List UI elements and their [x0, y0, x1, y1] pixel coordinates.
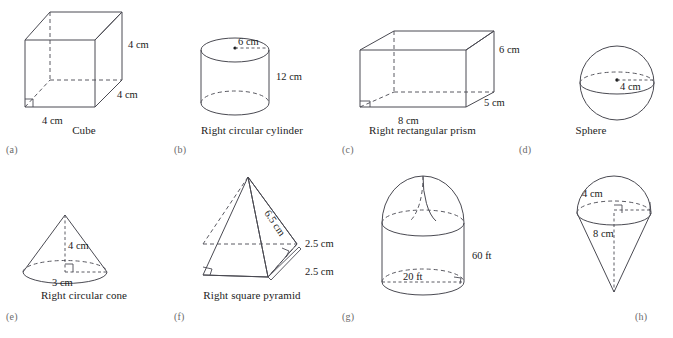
cone-height-label: 4 cm [68, 240, 89, 251]
panel-cube: 4 cm 4 cm 4 cm Cube (a) [0, 0, 168, 169]
sphere-equator-front [580, 83, 654, 94]
pyramid-sublabel: (f) [174, 311, 185, 322]
cube-drawing: 4 cm 4 cm 4 cm [0, 0, 168, 132]
dome-cylinder-bottom-front-arc [382, 282, 464, 295]
cube-height-label: 4 cm [128, 39, 149, 50]
dome-cylinder-sublabel: (g) [342, 311, 354, 322]
cube-hidden-diagonal-edge [25, 80, 50, 107]
pyramid-side-lower-label: 2.5 cm [305, 266, 334, 277]
square-pyramid-drawing: 6.5 cm 2.5 cm 2.5 cm [168, 169, 336, 301]
sphere-radius-label: 4 cm [620, 81, 641, 92]
cylinder-sublabel: (b) [174, 144, 186, 155]
pyramid-caption: Right square pyramid [168, 289, 336, 302]
geometry-figure-sheet: 4 cm 4 cm 4 cm Cube (a) 6 cm [0, 0, 673, 338]
cube-top-face [25, 12, 122, 40]
panel-sphere: 4 cm Sphere (d) [509, 0, 673, 169]
cylinder-height-label: 12 cm [276, 71, 302, 82]
pyramid-base-corner-tick-upper [299, 247, 301, 249]
pyramid-base-edge-right-offset [271, 249, 301, 280]
pyramid-slant-right-angle-marker [282, 248, 289, 257]
cube-sublabel: (a) [6, 144, 18, 155]
prism-caption: Right rectangular prism [336, 124, 509, 137]
sphere-outline [580, 46, 654, 120]
cylinder-top-ellipse [201, 38, 269, 62]
cone-right-angle-marker [65, 264, 73, 272]
prism-right-face [466, 31, 494, 107]
prism-depth-label: 5 cm [484, 97, 505, 108]
dome-base-front-arc [382, 223, 464, 236]
cone-left-side [23, 215, 65, 272]
panel-rectangular-prism: 6 cm 5 cm 8 cm Right rectangular prism (… [336, 0, 504, 169]
hemisphere-radius-label: 4 cm [582, 188, 603, 199]
pyramid-side-upper-label: 2.5 cm [305, 238, 334, 249]
cone-caption: Right circular cone [0, 289, 168, 302]
prism-top-face [360, 31, 494, 50]
pyramid-hidden-back-edge [203, 177, 248, 244]
cylinder-with-dome-drawing: 20 ft 60 ft [336, 169, 504, 301]
dome-cylinder-height-label: 60 ft [472, 250, 492, 261]
pyramid-base-front-edge [203, 275, 268, 277]
dome-meridian-arc [423, 176, 436, 221]
rectangular-prism-drawing: 6 cm 5 cm 8 cm [336, 0, 504, 132]
panel-cylinder: 6 cm 12 cm Right circular cylinder (b) [168, 0, 336, 169]
panel-cone: 4 cm 3 cm Right circular cone (e) [0, 169, 168, 338]
panel-square-pyramid: 6.5 cm 2.5 cm 2.5 cm Right square pyrami… [168, 169, 336, 338]
panel-cylinder-with-dome: 20 ft 60 ft (g) [336, 169, 504, 338]
cone-radius-label: 3 cm [52, 277, 73, 288]
cone-with-hemisphere-drawing: 4 cm 8 cm [509, 169, 673, 301]
cube-depth-label: 4 cm [117, 89, 138, 100]
dome-cylinder-right-angle-marker [454, 277, 461, 284]
hemisphere-cone-sublabel: (h) [635, 311, 647, 322]
cylinder-drawing: 6 cm 12 cm [168, 0, 336, 132]
panel-cone-with-hemisphere: 4 cm 8 cm (h) [509, 169, 673, 338]
prism-hidden-diagonal-edge [360, 92, 394, 107]
cube-front-face [25, 40, 95, 107]
sphere-caption: Sphere [509, 124, 673, 137]
dome-base-back-arc [382, 210, 464, 223]
cylinder-bottom-front-arc [201, 103, 269, 115]
cylinder-radius-label: 6 cm [238, 36, 259, 47]
cone-drawing: 4 cm 3 cm [0, 169, 168, 301]
dome-cylinder-bottom-back-arc [382, 269, 464, 282]
inverted-cone-right-angle-marker [614, 205, 622, 213]
prism-front-face [360, 50, 466, 107]
dome-cylinder-radius-label: 20 ft [403, 271, 423, 282]
pyramid-base-edge-right [268, 247, 299, 277]
sphere-sublabel: (d) [519, 144, 531, 155]
prism-sublabel: (c) [342, 144, 354, 155]
inverted-cone-height-label: 8 cm [593, 228, 614, 239]
cone-sublabel: (e) [6, 311, 18, 322]
pyramid-base-corner-tick [268, 277, 271, 280]
pyramid-slant-label: 6.5 cm [262, 208, 287, 238]
cube-caption: Cube [0, 124, 168, 137]
dome-meridian-hidden-arc [410, 176, 423, 221]
cylinder-caption: Right circular cylinder [168, 124, 336, 137]
sphere-drawing: 4 cm [509, 0, 673, 132]
hemisphere-rim-back-arc [577, 201, 651, 213]
cylinder-bottom-back-arc [201, 91, 269, 103]
